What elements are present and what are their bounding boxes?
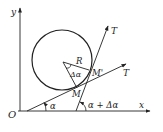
y-axis-label: y <box>10 7 17 17</box>
point-m-prime-label: M' <box>91 68 103 78</box>
osculating-circle <box>32 30 92 90</box>
radius-label: R <box>75 56 83 66</box>
origin-label: O <box>8 109 16 120</box>
curvature-diagram: y x O T T R Δα M M' α α + Δα <box>0 0 163 132</box>
tangent-label-1: T <box>111 26 118 36</box>
alpha-plus-label: α + Δα <box>88 100 118 110</box>
alpha-label: α <box>50 101 56 111</box>
delta-alpha-arc <box>66 65 71 69</box>
x-axis-label: x <box>139 100 144 110</box>
alpha-plus-arc <box>80 102 86 111</box>
tangent-label-2: T <box>123 68 130 78</box>
point-m-label: M <box>71 89 81 99</box>
center-angle-label: Δα <box>69 70 82 79</box>
alpha-arc <box>44 103 46 112</box>
